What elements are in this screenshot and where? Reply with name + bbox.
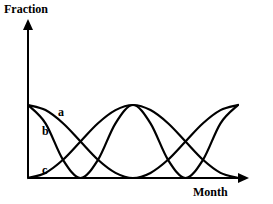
fraction-by-month-chart: Fraction a b c Month: [0, 0, 273, 204]
y-axis-arrow-icon: [23, 19, 33, 30]
x-axis-label: Month: [193, 185, 228, 199]
curve-label-c: c: [42, 163, 48, 177]
y-axis-label: Fraction: [4, 2, 48, 16]
x-axis-arrow-icon: [238, 173, 249, 183]
curve-label-a: a: [58, 105, 64, 119]
curve-label-b: b: [42, 124, 49, 138]
